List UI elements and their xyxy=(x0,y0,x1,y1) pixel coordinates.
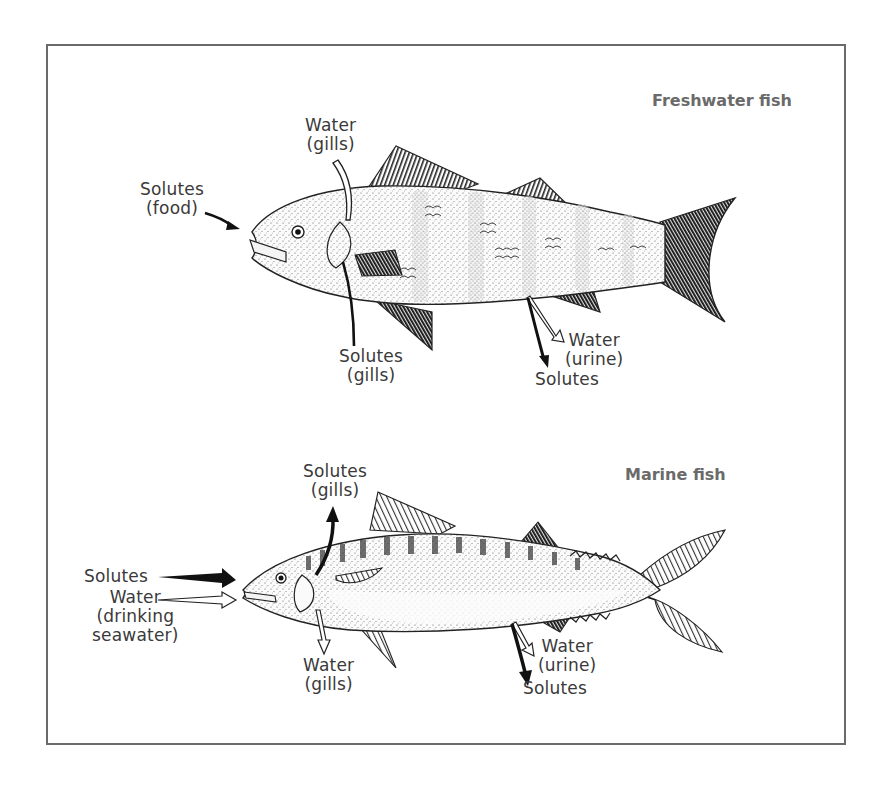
marine-solutes-gills-label: Solutes (gills) xyxy=(303,462,367,500)
freshwater-water-urine-label: Water (urine) xyxy=(565,331,623,369)
freshwater-water-gills-label: Water (gills) xyxy=(305,116,356,154)
freshwater-solutes-food-label: Solutes (food) xyxy=(140,180,204,218)
freshwater-fish-title: Freshwater fish xyxy=(652,91,792,110)
freshwater-solutes-urine-label: Solutes xyxy=(535,370,599,389)
freshwater-fish-drawing xyxy=(250,146,735,350)
marine-fish-title: Marine fish xyxy=(625,465,726,484)
freshwater-solutes-gills-label: Solutes (gills) xyxy=(339,347,403,385)
fish-illustrations xyxy=(0,0,872,785)
marine-water-gills-label: Water (gills) xyxy=(303,656,354,694)
marine-solutes-in-label: Solutes xyxy=(84,567,148,586)
marine-water-urine-label: Water (urine) xyxy=(538,637,596,675)
marine-fish-drawing xyxy=(243,492,725,668)
marine-solutes-urine-label: Solutes xyxy=(523,679,587,698)
marine-water-drinking-label: Water (drinking seawater) xyxy=(92,588,179,645)
